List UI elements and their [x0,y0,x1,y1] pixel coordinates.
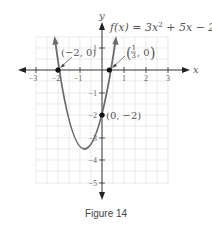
graph: −3 −2 −1 1 2 3 x 1 −1 −2 −3 −4 −5 y [0,0,212,227]
y-tick-label: −4 [88,156,97,165]
y-tick-label: −5 [88,179,97,188]
x-tick-label: −2 [52,74,61,83]
x-tick-label: −3 [29,74,38,83]
x-tick-label: −1 [74,74,83,83]
point-y-intercept [99,112,104,117]
x-tick-label: 2 [144,74,148,83]
y-tick-label: −2 [88,111,97,120]
fraction-numerator: 1 [132,44,136,52]
fraction-denominator: 3 [132,52,136,60]
y-tick-label: −1 [88,89,97,98]
point-label-one-third-0: ( 1 3 , 0 ) [126,44,155,61]
point-label-neg2-0: (−2, 0) [61,47,96,58]
function-label: f(x) = 3x2 + 5x − 2 [109,21,212,34]
arrow-right-icon [182,67,190,73]
curve-arrow-right-icon [113,36,119,45]
point-label-rest: , 0 [137,47,150,58]
y-axis-label: y [98,10,105,21]
fx-rest: + 5x − 2 [163,21,212,34]
arrow-left-icon [18,67,26,73]
x-tick-label: 1 [122,74,126,83]
curve-arrow-left-icon [53,36,59,45]
point-x-intercept-right [107,67,112,72]
fx-text: f(x) = 3x [109,21,159,34]
arrow-down-icon [99,192,105,200]
x-axis-label: x [193,64,199,75]
figure-caption: Figure 14 [0,208,212,219]
x-tick-label: 3 [166,74,170,83]
paren-close: ) [150,45,155,61]
arrow-up-icon [99,22,105,30]
point-x-intercept-left [55,67,60,72]
point-label-0-neg2: (0, −2) [106,110,141,121]
